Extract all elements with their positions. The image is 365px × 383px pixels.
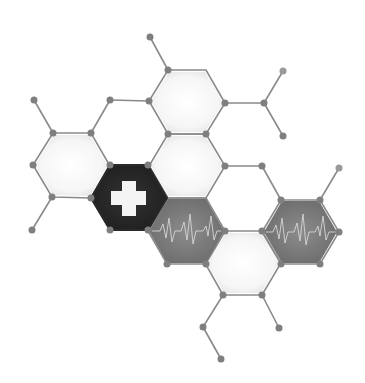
medical-hexagon-illustration — [0, 0, 365, 383]
